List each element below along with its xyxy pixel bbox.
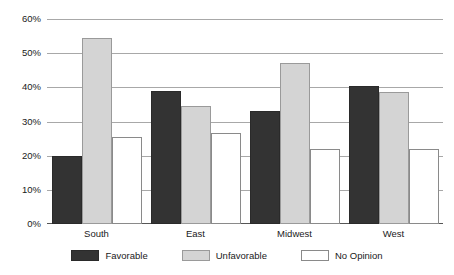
- y-axis-tick-label: 10%: [5, 185, 41, 195]
- y-axis-tick-label: 30%: [5, 117, 41, 127]
- no-opinion-swatch: [301, 250, 329, 261]
- bar-south-unfavorable[interactable]: [82, 38, 112, 224]
- y-axis-tick-label: 40%: [5, 83, 41, 93]
- y-axis-tick-label: 20%: [5, 151, 41, 161]
- plot-area: 0%10%20%30%40%50%60%: [47, 19, 443, 224]
- legend-item-unfavorable[interactable]: Unfavorable: [182, 250, 267, 261]
- legend-label: Favorable: [105, 250, 147, 261]
- chart-legend: FavorableUnfavorableNo Opinion: [0, 250, 454, 261]
- bar-group-midwest: [245, 19, 344, 224]
- legend-item-favorable[interactable]: Favorable: [71, 250, 147, 261]
- favorable-swatch: [71, 250, 99, 261]
- bar-midwest-no-opinion[interactable]: [310, 149, 340, 224]
- bar-group-south: [47, 19, 146, 224]
- x-axis-label-west: West: [344, 228, 443, 239]
- bar-west-unfavorable[interactable]: [379, 92, 409, 224]
- bar-midwest-unfavorable[interactable]: [280, 63, 310, 224]
- legend-label: No Opinion: [335, 250, 383, 261]
- bar-east-favorable[interactable]: [151, 91, 181, 224]
- bar-east-unfavorable[interactable]: [181, 106, 211, 224]
- bar-midwest-favorable[interactable]: [250, 111, 280, 224]
- grouped-bar-chart: 0%10%20%30%40%50%60% SouthEastMidwestWes…: [0, 0, 454, 275]
- bar-west-no-opinion[interactable]: [409, 149, 439, 224]
- x-axis-label-south: South: [47, 228, 146, 239]
- bar-east-no-opinion[interactable]: [211, 133, 241, 224]
- bar-group-east: [146, 19, 245, 224]
- x-axis-label-midwest: Midwest: [245, 228, 344, 239]
- x-axis-label-east: East: [146, 228, 245, 239]
- y-axis-tick-label: 60%: [5, 14, 41, 24]
- legend-item-no-opinion[interactable]: No Opinion: [301, 250, 383, 261]
- unfavorable-swatch: [182, 250, 210, 261]
- bar-group-west: [344, 19, 443, 224]
- bar-west-favorable[interactable]: [349, 86, 379, 224]
- bar-south-favorable[interactable]: [52, 156, 82, 224]
- y-axis-tick-label: 50%: [5, 48, 41, 58]
- y-axis-tick-label: 0%: [5, 219, 41, 229]
- bar-south-no-opinion[interactable]: [112, 137, 142, 224]
- legend-label: Unfavorable: [216, 250, 267, 261]
